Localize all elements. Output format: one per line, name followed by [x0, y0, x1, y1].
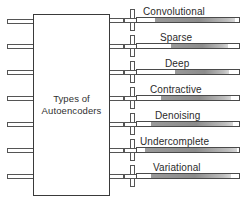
branch-bar-deep — [136, 69, 240, 75]
center-box-line-2: Autoencoders — [42, 105, 102, 117]
branch-bar-fill-deep — [175, 70, 229, 74]
branch-lead-variational — [110, 174, 124, 179]
input-stub-2 — [7, 44, 35, 49]
input-stub-5 — [7, 122, 35, 127]
branch-label-undercomplete: Undercomplete — [140, 136, 209, 147]
diagram-canvas: Types of Autoencoders ConvolutionalSpars… — [0, 0, 250, 214]
branch-bar-fill-denoising — [151, 122, 233, 126]
branch-bar-fill-convolutional — [155, 18, 235, 22]
input-stub-4 — [7, 96, 35, 101]
branch-bar-fill-contractive — [161, 96, 231, 100]
branch-label-sparse: Sparse — [160, 32, 192, 43]
center-box-types-of-autoencoders: Types of Autoencoders — [33, 14, 110, 196]
input-stub-1 — [7, 19, 35, 24]
branch-bar-contractive — [136, 95, 240, 101]
branch-bar-fill-sparse — [171, 44, 228, 48]
branch-bar-fill-variational — [151, 174, 231, 178]
branch-label-denoising: Denoising — [155, 110, 200, 121]
branch-bar-variational — [136, 173, 240, 179]
input-stub-3 — [7, 70, 35, 75]
branch-bar-fill-undercomplete — [145, 148, 237, 152]
branch-lead-convolutional — [110, 18, 124, 23]
input-stub-6 — [7, 148, 35, 153]
branch-lead-contractive — [110, 96, 124, 101]
branch-lead-sparse — [110, 44, 124, 49]
branch-bar-sparse — [136, 43, 240, 49]
branch-bar-denoising — [136, 121, 240, 127]
branch-lead-undercomplete — [110, 148, 124, 153]
branch-bar-convolutional — [136, 17, 240, 23]
branch-lead-deep — [110, 70, 124, 75]
branch-label-deep: Deep — [165, 58, 189, 69]
center-box-line-1: Types of — [53, 93, 90, 105]
branch-label-contractive: Contractive — [150, 84, 202, 95]
branch-label-variational: Variational — [153, 162, 201, 173]
branch-bar-undercomplete — [136, 147, 240, 153]
branch-label-convolutional: Convolutional — [143, 6, 205, 17]
branch-lead-denoising — [110, 122, 124, 127]
input-stub-7 — [7, 174, 35, 179]
